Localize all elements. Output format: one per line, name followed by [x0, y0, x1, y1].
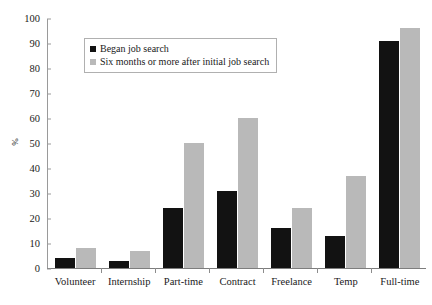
y-axis-tick-label-8: 80: [30, 64, 48, 75]
y-axis-label: %: [10, 131, 20, 153]
x-axis-tick-label-4: Freelance: [265, 276, 319, 287]
bar: [184, 143, 204, 268]
bar: [55, 258, 75, 268]
bar: [271, 228, 291, 268]
x-axis-tick-mark-1: [155, 268, 156, 273]
y-axis-tick-mark-2: [47, 219, 51, 220]
bar: [379, 41, 399, 269]
y-axis-tick-mark-0: [47, 269, 51, 270]
x-axis-tick-label-5: Temp: [319, 276, 373, 287]
bar: [400, 28, 420, 268]
y-axis-tick-mark-5: [47, 144, 51, 145]
y-axis-tick-label-9: 90: [30, 39, 48, 50]
bar: [130, 251, 150, 269]
y-axis-tick-mark-10: [47, 19, 51, 20]
y-axis-tick-mark-7: [47, 94, 51, 95]
legend-label: Began job search: [100, 42, 169, 55]
bar: [346, 176, 366, 269]
y-axis-tick-mark-9: [47, 44, 51, 45]
x-axis-tick-mark-3: [263, 268, 264, 273]
x-axis-tick-labels: VolunteerInternshipPart-timeContractFree…: [48, 276, 427, 287]
bar: [76, 248, 96, 268]
legend-swatch-icon: [90, 59, 96, 65]
y-axis-tick-label-3: 30: [30, 189, 48, 200]
bar: [163, 208, 183, 268]
y-axis-tick-mark-3: [47, 194, 51, 195]
y-axis-tick-label-4: 40: [30, 164, 48, 175]
bar-group-temp: [318, 19, 372, 268]
y-axis-tick-mark-8: [47, 69, 51, 70]
x-axis-line: [47, 268, 426, 269]
y-axis-tick-mark-6: [47, 119, 51, 120]
y-axis-tick-label-6: 60: [30, 114, 48, 125]
x-axis-tick-mark-4: [317, 268, 318, 273]
x-axis-tick-label-2: Part-time: [156, 276, 210, 287]
bar-group-full-time: [372, 19, 426, 268]
y-axis-tick-mark-1: [47, 244, 51, 245]
x-axis-tick-mark-0: [101, 268, 102, 273]
chart-legend: Began job search Six months or more afte…: [84, 38, 277, 73]
x-axis-tick-label-6: Full-time: [373, 276, 427, 287]
y-axis-tick-mark-4: [47, 169, 51, 170]
bar: [325, 236, 345, 269]
legend-item-1: Six months or more after initial job sea…: [90, 55, 269, 68]
y-axis-tick-label-10: 100: [24, 14, 47, 25]
bar: [238, 118, 258, 268]
y-axis-tick-label-0: 0: [35, 264, 47, 275]
y-axis-tick-label-2: 20: [30, 214, 48, 225]
bar: [217, 191, 237, 269]
bar: [109, 261, 129, 269]
x-axis-tick-label-3: Contract: [210, 276, 264, 287]
x-axis-tick-mark-2: [209, 268, 210, 273]
y-axis-tick-label-7: 70: [30, 89, 48, 100]
x-axis-tick-label-1: Internship: [102, 276, 156, 287]
bar: [292, 208, 312, 268]
legend-label: Six months or more after initial job sea…: [100, 55, 269, 68]
x-axis-tick-label-0: Volunteer: [48, 276, 102, 287]
bar-chart: % 0102030405060708090100 VolunteerIntern…: [0, 0, 432, 305]
legend-swatch-icon: [90, 46, 96, 52]
legend-item-0: Began job search: [90, 42, 269, 55]
y-axis-tick-label-1: 10: [30, 239, 48, 250]
x-axis-tick-mark-5: [371, 268, 372, 273]
y-axis-tick-label-5: 50: [30, 139, 48, 150]
